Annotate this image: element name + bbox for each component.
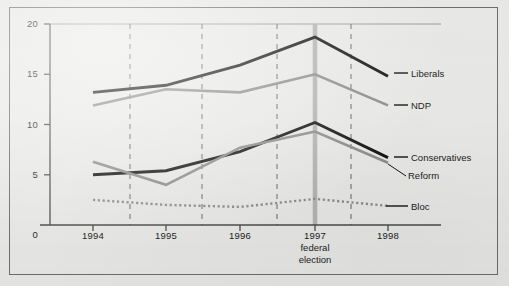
- legend-leader-lines: [386, 73, 408, 206]
- election-annotation: federal election: [285, 242, 345, 265]
- y-tick-label-15: 15: [16, 68, 38, 79]
- series-line-reform: [93, 132, 388, 185]
- series-line-bloc: [93, 199, 388, 207]
- x-tick-label-1994: 1994: [73, 230, 113, 241]
- series-label-ndp: NDP: [411, 100, 431, 111]
- election-annotation-line-election: election: [285, 254, 345, 266]
- y-tick-label-5: 5: [16, 169, 38, 180]
- series-label-reform: Reform: [408, 170, 439, 181]
- x-tick-label-1998: 1998: [368, 230, 408, 241]
- y-tick-label-10: 10: [16, 119, 38, 130]
- series-label-conservatives: Conservatives: [411, 152, 471, 163]
- series-label-liberals: Liberals: [411, 68, 444, 79]
- y-tick-label-20: 20: [16, 18, 38, 29]
- series-label-bloc: Bloc: [411, 201, 429, 212]
- series-group: [93, 37, 388, 207]
- line-chart-canvas: [0, 0, 509, 286]
- chart-screenshot: 20 15 10 5 0 1994 1995 1996 1997 1998 fe…: [0, 0, 509, 286]
- y-axis-ticks: [44, 24, 50, 175]
- x-tick-label-1995: 1995: [146, 230, 186, 241]
- x-tick-label-1997: 1997: [295, 230, 335, 241]
- series-line-ndp: [93, 74, 388, 105]
- leader-line-reform: [388, 164, 406, 176]
- series-line-liberals: [93, 37, 388, 92]
- election-annotation-line-federal: federal: [285, 242, 345, 254]
- x-tick-label-1996: 1996: [220, 230, 260, 241]
- y-tick-label-0: 0: [16, 229, 38, 240]
